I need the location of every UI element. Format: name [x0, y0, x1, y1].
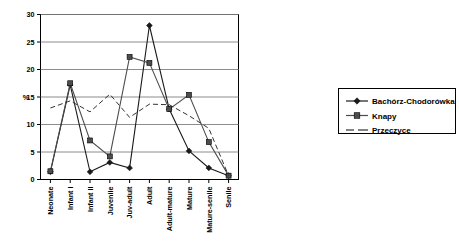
y-tick-label: 20 — [27, 65, 35, 74]
x-axis-ticks — [50, 180, 228, 184]
x-axis-label: Mature-senile — [205, 187, 214, 233]
y-tick-label: 30 — [27, 10, 35, 19]
line-chart: 051015202530 NeonateInfant IInfant IIJuv… — [0, 0, 459, 251]
legend: Bachórz-ChodorówkaKnapyPrzeczyce — [339, 89, 456, 136]
data-point-marker — [147, 60, 152, 65]
x-axis-label: Juv-adult — [125, 186, 134, 219]
x-axis-label: Infant II — [86, 187, 95, 213]
data-point-marker — [187, 92, 192, 97]
legend-marker — [354, 113, 360, 119]
data-point-marker — [206, 140, 211, 145]
legend-label: Przeczyce — [372, 126, 411, 135]
x-axis-label: Juvenile — [106, 186, 115, 215]
y-axis-title: % — [23, 93, 30, 102]
x-axis-label: Infant I — [66, 187, 75, 211]
x-axis-label: Adult — [145, 186, 154, 205]
data-point-marker — [88, 138, 93, 143]
x-axis-label: Adult-mature — [165, 187, 174, 232]
y-tick-label: 10 — [27, 120, 35, 129]
x-axis-labels: NeonateInfant IInfant IIJuvenileJuv-adul… — [46, 186, 233, 233]
legend-label: Knapy — [372, 112, 397, 121]
data-point-marker — [167, 107, 172, 112]
x-axis-label: Mature — [185, 187, 194, 211]
y-tick-label: 0 — [31, 175, 35, 184]
chart-canvas: 051015202530 NeonateInfant IInfant IIJuv… — [0, 0, 459, 251]
data-point-marker — [48, 169, 53, 174]
x-axis-label: Neonate — [46, 186, 55, 214]
data-point-marker — [68, 81, 73, 86]
x-axis-label: Senile — [224, 187, 233, 208]
y-tick-label: 25 — [27, 38, 35, 47]
legend-label: Bachórz-Chodorówka — [372, 97, 455, 106]
data-point-marker — [127, 54, 132, 59]
data-point-marker — [107, 154, 112, 159]
y-tick-label: 5 — [31, 148, 35, 157]
